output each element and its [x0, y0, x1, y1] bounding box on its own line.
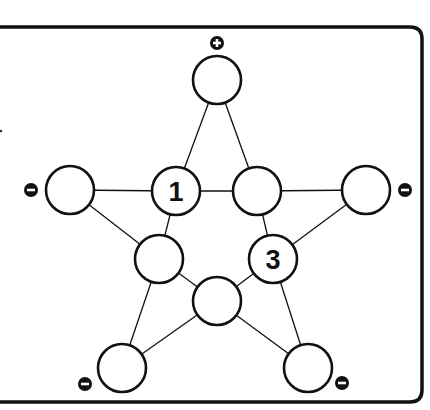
node-top[interactable]	[193, 56, 241, 104]
node-circle[interactable]	[193, 56, 241, 104]
minus-sign-icon	[24, 183, 38, 197]
minus-sign-icon	[335, 376, 349, 390]
node-left[interactable]	[46, 166, 94, 214]
node-inner-right[interactable]	[233, 167, 281, 215]
node-right[interactable]	[342, 166, 390, 214]
node-value: 1	[168, 177, 183, 207]
node-inner-lower-left[interactable]	[135, 235, 183, 283]
minus-sign-icon	[78, 377, 92, 391]
minus-sign-icon	[398, 183, 412, 197]
node-inner-left[interactable]: 1	[152, 167, 200, 215]
node-circle[interactable]	[342, 166, 390, 214]
star-puzzle-diagram: 13	[0, 0, 430, 410]
node-inner-lower-right[interactable]: 3	[249, 235, 297, 283]
node-circle[interactable]	[98, 344, 146, 392]
node-circle[interactable]	[46, 166, 94, 214]
star-nodes: 13	[46, 56, 390, 392]
node-value: 3	[265, 245, 280, 275]
node-bottom-right[interactable]	[284, 344, 332, 392]
stray-dot	[0, 130, 2, 133]
plus-sign-icon	[210, 36, 224, 50]
node-circle[interactable]	[284, 344, 332, 392]
node-circle[interactable]	[233, 167, 281, 215]
node-bottom-left[interactable]	[98, 344, 146, 392]
node-inner-bottom[interactable]	[193, 277, 241, 325]
node-circle[interactable]	[193, 277, 241, 325]
node-circle[interactable]	[135, 235, 183, 283]
